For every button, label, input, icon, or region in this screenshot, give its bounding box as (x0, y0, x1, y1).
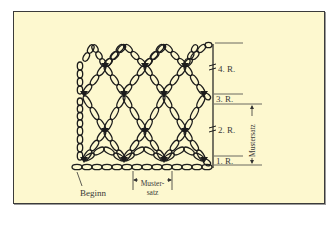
row3-label: 3. R. (216, 94, 233, 104)
repeat-horizontal-label-2: satz (147, 188, 159, 197)
start-pointer (77, 172, 82, 186)
chain-stitches (72, 42, 212, 169)
repeat-vertical-label: Mustersatz (248, 123, 257, 157)
repeat-horizontal-label-1: Muster- (141, 179, 165, 188)
vertical-repeat-arrow: Mustersatz (248, 105, 257, 164)
crochet-chart: 4. R. 3. R. 2. R. 1. R. Mustersatz Muste… (0, 0, 334, 227)
row4-label: 4. R. (218, 64, 235, 74)
row1-label: 1. R. (216, 156, 233, 166)
row2-label: 2. R. (218, 125, 235, 135)
start-label: Beginn (80, 188, 106, 198)
horizontal-repeat-arrow: Muster- satz (133, 171, 172, 197)
